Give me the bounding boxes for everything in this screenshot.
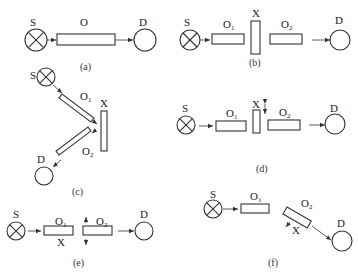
detector-label: D <box>335 14 343 26</box>
panel-caption: (d) <box>256 163 268 175</box>
source-label: S <box>184 16 190 28</box>
source-label: S <box>210 188 216 200</box>
detector-icon <box>325 114 345 134</box>
source-lamp-icon <box>180 30 200 50</box>
element-label: O1 <box>226 107 238 121</box>
element-label: O1 <box>250 190 262 204</box>
element-label: O1 <box>80 90 92 104</box>
sample-x <box>101 111 107 151</box>
sample-x <box>251 21 260 54</box>
detector-icon <box>330 30 350 50</box>
element-label: O2 <box>281 18 293 32</box>
optical-element-o1 <box>212 34 244 44</box>
panel-a: S O D (a) <box>25 16 156 73</box>
optical-element-o2 <box>270 34 302 44</box>
panel-caption: (f) <box>268 257 278 269</box>
detector-icon <box>135 222 153 240</box>
panel-e: S O1 X O2 D (e) <box>7 208 153 269</box>
element-label: O1 <box>223 18 235 32</box>
tilt-arrow-icon <box>286 222 290 227</box>
element-label: O2 <box>301 197 313 211</box>
panel-c: S O1 X O2 D (c) <box>30 68 108 198</box>
optical-element-o1 <box>216 121 246 131</box>
element-label: O <box>80 16 88 28</box>
source-lamp-icon <box>177 116 195 134</box>
source-label: S <box>30 69 36 81</box>
sample-label: X <box>57 236 65 248</box>
detector-label: D <box>139 16 147 28</box>
panel-caption: (c) <box>72 186 83 198</box>
element-label: O2 <box>82 145 94 159</box>
source-lamp-icon <box>37 68 55 86</box>
detector-icon <box>35 167 53 185</box>
sample-label: X <box>292 224 300 236</box>
optical-element-o2 <box>268 120 300 130</box>
element-label: O1 <box>55 215 67 229</box>
detector-label: D <box>330 102 338 114</box>
detector-icon <box>332 231 352 251</box>
detector-label: D <box>337 217 345 229</box>
detector-icon <box>134 29 156 51</box>
optical-element-o <box>57 34 115 45</box>
source-label: S <box>13 208 19 220</box>
optical-element-o1 <box>241 204 269 213</box>
source-lamp-icon <box>25 29 47 51</box>
sample-label: X <box>252 7 260 19</box>
panel-b: S O1 X O2 D (b) <box>180 7 350 69</box>
element-label: O2 <box>279 106 291 120</box>
panel-caption: (b) <box>249 57 261 69</box>
source-label: S <box>30 16 36 28</box>
sample-x <box>253 110 260 133</box>
optical-element-o2 <box>83 226 112 235</box>
detector-label: D <box>140 208 148 220</box>
panel-caption: (a) <box>80 61 91 73</box>
source-label: S <box>182 102 188 114</box>
element-label: O2 <box>96 215 108 229</box>
source-lamp-icon <box>7 222 25 240</box>
sample-label: X <box>100 97 108 109</box>
panel-d: S O1 X O2 D (d) <box>177 98 345 175</box>
optical-setup-diagram: S O D (a) S O1 X O2 D (b) S <box>0 0 358 272</box>
panel-f: S O1 O2 X D (f) <box>204 188 352 269</box>
source-lamp-icon <box>204 200 222 218</box>
optical-element-o1 <box>44 226 73 235</box>
detector-label: D <box>37 153 45 165</box>
panel-caption: (e) <box>73 257 84 269</box>
sample-label: X <box>252 98 260 110</box>
